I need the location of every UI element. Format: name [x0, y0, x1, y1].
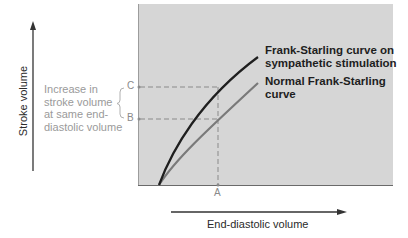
marker-c [138, 86, 141, 89]
sympathetic-curve-label: Frank-Starling curve on sympathetic stim… [265, 44, 397, 70]
label-line: curve [265, 88, 386, 101]
annotation-line: Increase in [44, 83, 122, 96]
x-axis-arrowhead [337, 209, 347, 215]
tick-label-a: A [214, 187, 221, 198]
label-line: Frank-Starling curve on [265, 44, 397, 57]
label-line: Normal Frank-Starling [265, 75, 386, 88]
increase-annotation: Increase in stroke volume at same end- d… [44, 83, 122, 133]
y-axis-label: Stroke volume [17, 61, 29, 141]
annotation-line: diastolic volume [44, 121, 122, 134]
y-axis-arrowhead [30, 21, 36, 30]
label-line: sympathetic stimulation [265, 57, 397, 70]
tick-label-b: B [127, 112, 134, 123]
annotation-line: stroke volume [44, 96, 122, 109]
tick-label-c: C [127, 80, 134, 91]
normal-curve-label: Normal Frank-Starling curve [265, 75, 386, 101]
marker-b [138, 118, 141, 121]
x-axis-label: End-diastolic volume [207, 218, 309, 230]
annotation-line: at same end- [44, 108, 122, 121]
